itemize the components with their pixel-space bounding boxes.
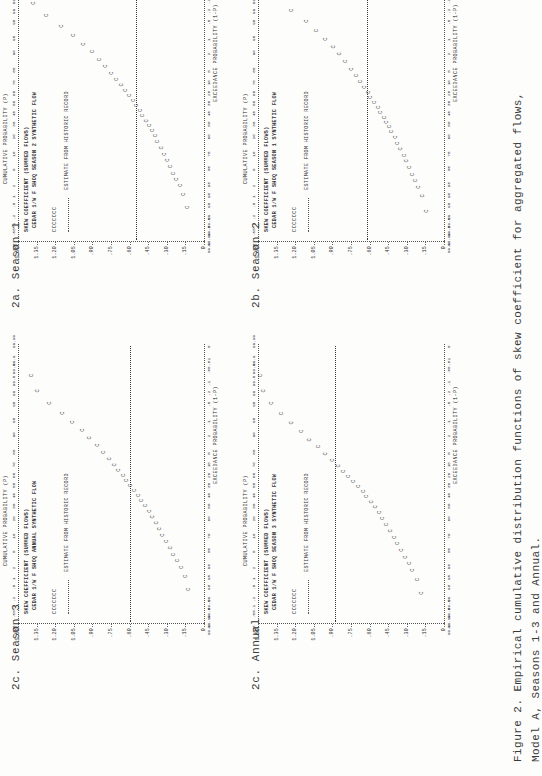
legend-marker-sample: CCCCCCC bbox=[292, 206, 298, 232]
x-tick-label-bottom: 60 bbox=[446, 134, 451, 139]
data-point-marker: C bbox=[166, 158, 171, 161]
y-tick-mark bbox=[74, 624, 75, 627]
data-point-marker: C bbox=[377, 106, 382, 109]
y-tick-label: .30 bbox=[404, 246, 410, 256]
legend-marker-sample: CCCCCCC bbox=[292, 588, 298, 614]
data-point-marker: C bbox=[148, 124, 153, 127]
data-point-marker: C bbox=[332, 45, 337, 48]
data-point-marker: C bbox=[373, 101, 378, 104]
plot-panel-2d: SKEW COEFFICIENT (SUMMED FLOWS)CEDAR 1/W… bbox=[8, 340, 243, 670]
x-tick-label-top: 2 bbox=[11, 185, 16, 188]
data-point-marker: C bbox=[124, 89, 129, 92]
data-point-marker: C bbox=[338, 52, 343, 55]
y-tick-mark bbox=[407, 242, 408, 245]
x-tick-label-bottom: .01 bbox=[206, 358, 211, 366]
x-tick-label-bottom: 80 bbox=[446, 548, 451, 553]
x-axis-label-bottom: EXCEEDANCE PROBABILITY (1-P) bbox=[213, 386, 219, 484]
x-tick-label-top: 40 bbox=[251, 493, 256, 498]
x-tick-label-bottom: 98 bbox=[446, 203, 451, 208]
plot-panel-2b: SKEW COEFFICIENT (SUMMED FLOWS)CEDAR 1/W… bbox=[8, 0, 243, 288]
data-point-marker: C bbox=[404, 555, 409, 558]
x-tick-label-bottom: 50 bbox=[206, 121, 211, 126]
x-tick-label-top: 98 bbox=[11, 402, 16, 407]
x-tick-label-bottom: .2 bbox=[446, 9, 451, 14]
x-tick-label-top: 60 bbox=[251, 91, 256, 96]
x-tick-label-bottom: 90 bbox=[446, 564, 451, 569]
y-tick-mark bbox=[295, 242, 296, 245]
data-point-marker: C bbox=[388, 125, 393, 128]
x-tick-label-bottom: .1 bbox=[446, 381, 451, 386]
x-tick-label-bottom: 70 bbox=[206, 151, 211, 156]
x-tick-label-bottom: 90 bbox=[206, 182, 211, 187]
y-tick-label: .75 bbox=[108, 246, 114, 256]
y-tick-mark bbox=[332, 624, 333, 627]
x-tick-label-bottom: 99.9 bbox=[446, 243, 451, 254]
x-tick-label-top: 10 bbox=[251, 533, 256, 538]
y-tick-mark bbox=[92, 624, 93, 627]
y-tick-mark bbox=[185, 242, 186, 245]
x-axis-top bbox=[258, 0, 259, 242]
x-tick-label-bottom: 40 bbox=[206, 493, 211, 498]
y-tick-mark bbox=[148, 624, 149, 627]
data-point-marker: C bbox=[158, 527, 163, 530]
y-tick-mark bbox=[370, 242, 371, 245]
x-tick-label-top: 80 bbox=[11, 449, 16, 454]
y-tick-mark bbox=[444, 242, 445, 245]
x-tick-label-top: 99 bbox=[251, 9, 256, 14]
data-point-marker: C bbox=[370, 500, 375, 503]
x-tick-label-bottom: 60 bbox=[206, 516, 211, 521]
data-point-marker: C bbox=[151, 515, 156, 518]
x-axis-label-top: CUMULATIVE PROBABILITY (P) bbox=[243, 475, 249, 566]
y-tick-label: 1.20 bbox=[292, 628, 298, 641]
x-tick-label-top: 30 bbox=[11, 503, 16, 508]
data-point-marker: C bbox=[155, 521, 160, 524]
subcaption-2b: 2b. Season 2 bbox=[250, 222, 262, 308]
data-point-marker: C bbox=[45, 14, 50, 17]
data-point-marker: C bbox=[425, 209, 430, 212]
x-tick-label-top: 2 bbox=[11, 567, 16, 570]
y-tick-label: .15 bbox=[182, 628, 188, 638]
x-tick-label-top: .1 bbox=[251, 605, 256, 610]
y-tick-mark bbox=[92, 242, 93, 245]
x-tick-label-bottom: 95 bbox=[446, 575, 451, 580]
data-point-marker: C bbox=[305, 19, 310, 22]
x-tick-label-bottom: 80 bbox=[446, 166, 451, 171]
y-tick-label: .90 bbox=[329, 246, 335, 256]
subcaption-2c: 2c. Season 3 bbox=[10, 604, 22, 690]
x-tick-label-top: 10 bbox=[251, 151, 256, 156]
y-tick-label: .90 bbox=[89, 628, 95, 638]
x-tick-label-bottom: .05 bbox=[446, 366, 451, 374]
x-tick-label-bottom: 98 bbox=[446, 585, 451, 590]
data-point-marker: C bbox=[385, 523, 390, 526]
y-tick-mark bbox=[314, 624, 315, 627]
data-point-marker: C bbox=[367, 91, 372, 94]
x-tick-label-top: 5 bbox=[11, 168, 16, 171]
y-tick-label: .15 bbox=[182, 246, 188, 256]
y-tick-label: .30 bbox=[164, 628, 170, 638]
x-tick-label-top: .5 bbox=[11, 203, 16, 208]
data-point-marker: C bbox=[290, 421, 295, 424]
legend-marker-sample: CCCCCCC bbox=[52, 206, 58, 232]
data-point-marker: C bbox=[396, 542, 401, 545]
data-point-marker: C bbox=[125, 479, 130, 482]
x-tick-label-bottom: 90 bbox=[446, 182, 451, 187]
y-tick-mark bbox=[130, 624, 131, 627]
x-axis-label-bottom: EXCEEDANCE PROBABILITY (1-P) bbox=[453, 386, 459, 484]
x-tick-label-bottom: .2 bbox=[206, 391, 211, 396]
x-tick-label-bottom: 80 bbox=[206, 548, 211, 553]
data-point-marker: C bbox=[108, 457, 113, 460]
data-point-marker: C bbox=[324, 452, 329, 455]
x-tick-label-bottom: 99 bbox=[446, 215, 451, 220]
y-tick-label: 1.35 bbox=[274, 246, 280, 259]
x-tick-label-top: 1 bbox=[11, 577, 16, 580]
x-tick-label-top: 99.5 bbox=[11, 376, 16, 387]
data-point-marker: C bbox=[98, 58, 103, 61]
data-point-marker: C bbox=[390, 130, 395, 133]
y-tick-mark bbox=[204, 242, 205, 245]
data-point-marker: C bbox=[394, 135, 399, 138]
plot-subtitle: CEDAR 1/W F SHOQ SEASON 2 SYNTHETIC FLOW bbox=[32, 92, 38, 228]
plot-subtitle: CEDAR 1/W F SHOQ SEASON 3 SYNTHETIC FLOW bbox=[272, 474, 278, 610]
data-point-marker: C bbox=[154, 134, 159, 137]
data-point-marker: C bbox=[184, 575, 189, 578]
x-tick-label-top: 99.9 bbox=[251, 355, 256, 366]
